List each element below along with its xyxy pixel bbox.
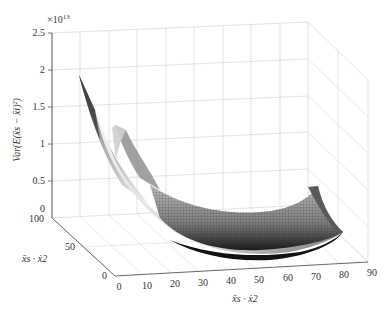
svg-text:80: 80 (339, 269, 349, 280)
svg-text:20: 20 (170, 278, 180, 289)
z-axis-ticks (48, 33, 52, 181)
svg-text:1: 1 (40, 138, 45, 149)
svg-text:60: 60 (283, 272, 293, 283)
svg-text:2.5: 2.5 (33, 27, 46, 38)
surface-plot: 2.5 2 1.5 1 0.5 0 ×1013 100 50 0 x̄s · ẋ… (0, 0, 388, 314)
svg-text:70: 70 (311, 271, 321, 282)
svg-text:2: 2 (40, 64, 45, 75)
surface-mesh (79, 75, 343, 260)
svg-text:10: 10 (142, 280, 152, 291)
z-exponent: ×1013 (47, 13, 70, 25)
svg-text:0: 0 (117, 281, 122, 292)
svg-text:40: 40 (226, 275, 236, 286)
svg-text:30: 30 (198, 277, 208, 288)
x-axis-label: x̄s · ẋ2 (231, 293, 257, 304)
z-axis-tick-labels: 2.5 2 1.5 1 0.5 0 ×1013 (33, 13, 71, 214)
svg-text:1.5: 1.5 (33, 101, 46, 112)
y-axis-ticks: 100 50 0 x̄s · ẋ2 (21, 213, 107, 281)
z-axis-label: Var(E(x̄s − x̄i)²) (11, 98, 23, 162)
svg-text:90: 90 (367, 267, 377, 278)
svg-text:50: 50 (65, 241, 75, 252)
svg-text:0.5: 0.5 (33, 175, 46, 186)
y-axis-label: x̄s · ẋ2 (21, 253, 47, 264)
svg-text:0: 0 (102, 270, 107, 281)
svg-text:100: 100 (29, 213, 44, 224)
x-axis-tick-labels: 0 10 20 30 40 50 60 70 80 90 x̄s · ẋ2 (117, 267, 378, 304)
svg-text:50: 50 (254, 274, 264, 285)
grid-back-wall (52, 22, 308, 218)
